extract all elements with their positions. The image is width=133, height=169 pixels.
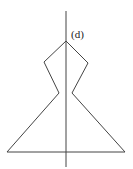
symmetry-figure <box>0 0 133 169</box>
figure-label: (d) <box>71 28 84 40</box>
